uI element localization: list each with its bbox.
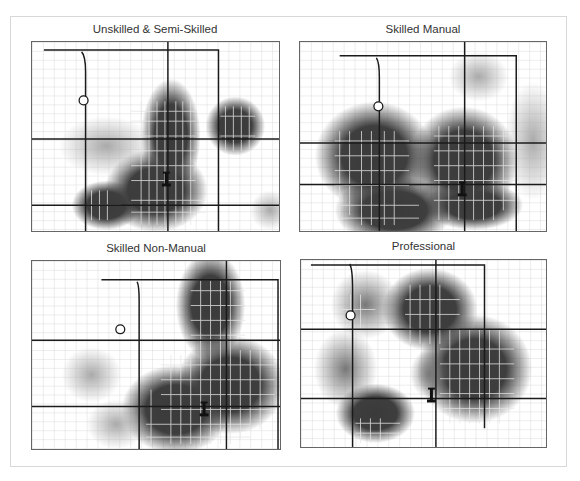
- map-panel-skilled-non-manual: [31, 260, 281, 450]
- density-map-skilled-non-manual: [32, 261, 280, 449]
- circle-marker-icon: [374, 102, 383, 111]
- density-map-unskilled: [32, 42, 279, 231]
- map-panel-professional: [300, 259, 547, 448]
- density-map-skilled-manual: [300, 42, 546, 231]
- map-panel-unskilled: [31, 41, 280, 232]
- panel-title-skilled-non-manual: Skilled Non-Manual: [31, 242, 281, 254]
- circle-marker-icon: [116, 325, 125, 334]
- panel-title-skilled-manual: Skilled Manual: [299, 23, 547, 35]
- map-panel-skilled-manual: [299, 41, 547, 232]
- panel-title-unskilled: Unskilled & Semi-Skilled: [31, 23, 279, 35]
- density-map-professional: [301, 260, 546, 447]
- circle-marker-icon: [346, 311, 355, 320]
- panel-title-professional: Professional: [300, 240, 547, 252]
- circle-marker-icon: [79, 96, 88, 105]
